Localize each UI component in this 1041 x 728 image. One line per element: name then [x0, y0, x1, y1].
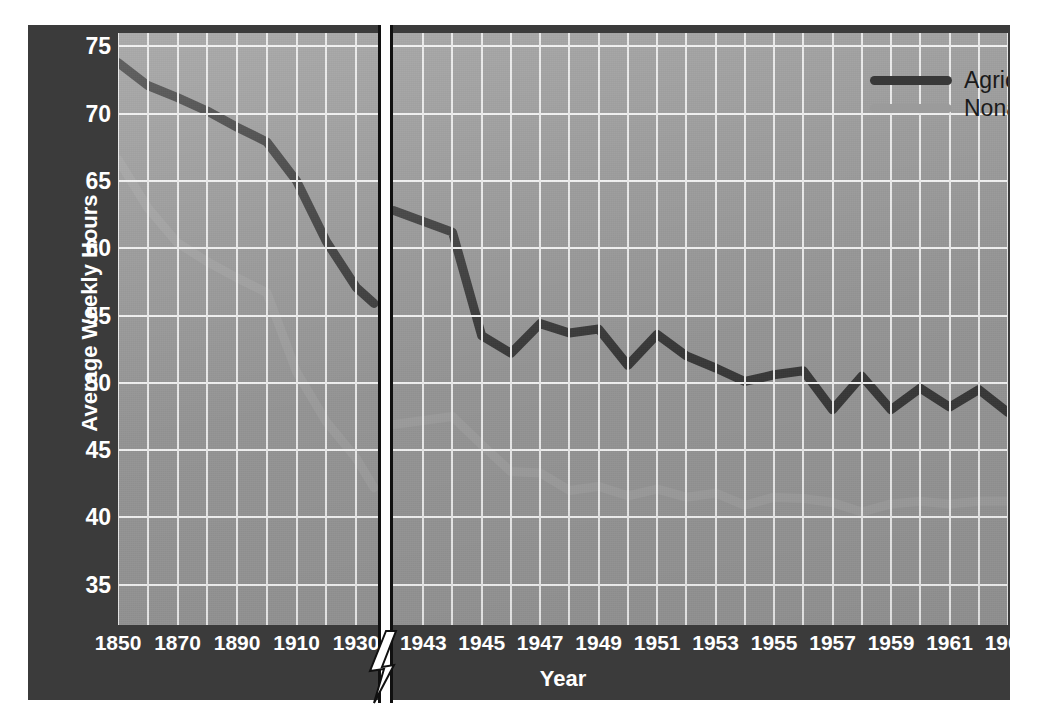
y-axis-tick-35: 35	[55, 571, 111, 598]
x-axis-tick-1949: 1949	[575, 631, 622, 655]
y-axis-tick-50: 50	[55, 369, 111, 396]
gridline-vertical	[118, 33, 119, 625]
gridline-vertical	[832, 33, 834, 625]
x-axis-tick-1957: 1957	[809, 631, 856, 655]
gridline-vertical	[177, 33, 179, 625]
gridline-vertical	[773, 33, 775, 625]
legend-swatch-nonagriculture	[870, 104, 952, 113]
y-axis-tick-75: 75	[55, 33, 111, 60]
y-axis-tick-55: 55	[55, 302, 111, 329]
gridline-vertical	[861, 33, 863, 625]
gridline-vertical	[296, 33, 298, 625]
y-axis-tick-70: 70	[55, 100, 111, 127]
x-axis-label: Year	[118, 666, 1008, 692]
gridline-vertical	[539, 33, 541, 625]
x-axis-tick-1910: 1910	[273, 631, 320, 655]
y-axis-tick-60: 60	[55, 235, 111, 262]
gridline-horizontal	[118, 315, 1008, 317]
x-axis-tick-1870: 1870	[154, 631, 201, 655]
gridline-horizontal	[118, 247, 1008, 249]
gridline-horizontal	[118, 584, 1008, 586]
gridline-vertical	[685, 33, 687, 625]
gridline-vertical	[802, 33, 804, 625]
x-axis-tick-1959: 1959	[868, 631, 915, 655]
gridline-vertical	[715, 33, 717, 625]
x-axis-tick-1945: 1945	[458, 631, 505, 655]
gridline-vertical	[598, 33, 600, 625]
legend-item-nonagriculture: Nonagriculture	[870, 94, 1008, 122]
x-axis-tick-1963: 1963	[985, 631, 1032, 655]
legend-swatch-agriculture	[870, 76, 952, 85]
legend: Agriculture Nonagriculture	[870, 66, 1008, 122]
x-axis-tick-1890: 1890	[214, 631, 261, 655]
plot-area: Agriculture Nonagriculture	[118, 33, 1008, 625]
x-axis-tick-1951: 1951	[634, 631, 681, 655]
legend-item-agriculture: Agriculture	[870, 66, 1008, 94]
legend-label-agriculture: Agriculture	[964, 67, 1008, 94]
gridline-vertical	[422, 33, 424, 625]
gridline-vertical	[147, 33, 149, 625]
y-axis-tick-45: 45	[55, 437, 111, 464]
gridline-horizontal	[118, 180, 1008, 182]
x-axis-tick-1953: 1953	[692, 631, 739, 655]
gridline-vertical	[627, 33, 629, 625]
gridline-horizontal	[118, 516, 1008, 518]
x-axis-tick-1947: 1947	[517, 631, 564, 655]
gridline-vertical	[451, 33, 453, 625]
gridline-vertical	[744, 33, 746, 625]
gridline-vertical	[656, 33, 658, 625]
gridline-horizontal	[118, 449, 1008, 451]
x-axis-tick-1850: 1850	[95, 631, 142, 655]
gridline-horizontal	[118, 382, 1008, 384]
legend-label-nonagriculture: Nonagriculture	[964, 95, 1008, 122]
gridline-vertical	[510, 33, 512, 625]
gridline-vertical	[568, 33, 570, 625]
gridline-vertical	[481, 33, 483, 625]
chart-page: Average Weekly Hours 757065605550454035 …	[0, 0, 1041, 728]
gridline-vertical	[325, 33, 327, 625]
y-axis-tick-40: 40	[55, 504, 111, 531]
x-axis-tick-1930: 1930	[333, 631, 380, 655]
x-axis-tick-1955: 1955	[751, 631, 798, 655]
gridline-vertical	[266, 33, 268, 625]
x-axis-tick-1943: 1943	[400, 631, 447, 655]
x-axis-tick-1961: 1961	[926, 631, 973, 655]
gridline-vertical	[355, 33, 357, 625]
y-axis-tick-65: 65	[55, 168, 111, 195]
gridline-horizontal	[118, 45, 1008, 47]
gridline-vertical	[236, 33, 238, 625]
gridline-vertical	[206, 33, 208, 625]
